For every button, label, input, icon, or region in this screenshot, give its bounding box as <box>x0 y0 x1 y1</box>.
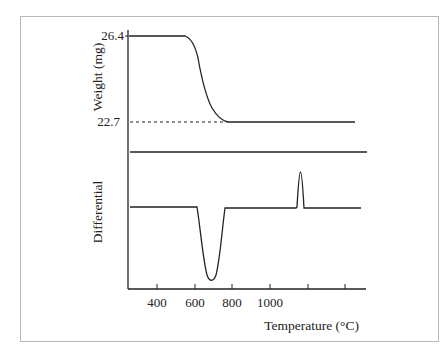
x-tick-label-1000: 1000 <box>257 295 283 310</box>
weight-curve <box>129 36 355 122</box>
weight-axis-title: Weight (mg) <box>90 43 105 111</box>
y-label-26-4: 26.4 <box>101 28 124 43</box>
x-tick-label-600: 600 <box>185 295 205 310</box>
x-tick-label-400: 400 <box>147 295 167 310</box>
y-label-22-7: 22.7 <box>97 114 120 129</box>
x-tick-label-800: 800 <box>222 295 242 310</box>
tga-dta-chart: 400 600 800 1000 26.4 22.7 Weight (mg) D… <box>0 0 446 358</box>
x-ticks <box>157 284 345 289</box>
differential-curve <box>130 172 361 280</box>
x-axis-title: Temperature (°C) <box>264 318 359 333</box>
differential-axis-title: Differential <box>90 180 105 243</box>
